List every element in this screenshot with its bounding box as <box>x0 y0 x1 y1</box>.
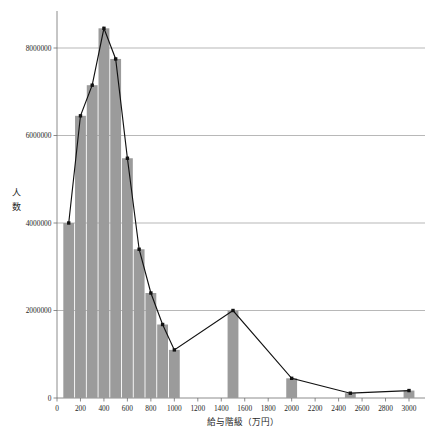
bar-2000 <box>286 378 297 398</box>
data-point-300 <box>91 83 94 86</box>
data-point-3000 <box>407 389 410 392</box>
x-tick-label-2600: 2600 <box>355 404 370 413</box>
y-tick-label-2000000: 2000000 <box>26 306 52 315</box>
bar-100 <box>63 223 74 398</box>
bar-1500 <box>228 311 239 399</box>
bar-800 <box>145 293 156 398</box>
data-point-2000 <box>290 377 293 380</box>
chart-canvas: 0200000040000006000000800000002004006008… <box>0 0 427 434</box>
data-point-1000 <box>173 348 176 351</box>
data-point-2500 <box>349 391 352 394</box>
x-tick-label-3000: 3000 <box>402 404 417 413</box>
bar-300 <box>87 85 98 398</box>
x-tick-label-1600: 1600 <box>237 404 252 413</box>
x-tick-label-2400: 2400 <box>331 404 346 413</box>
data-point-900 <box>161 323 164 326</box>
x-tick-label-1200: 1200 <box>190 404 205 413</box>
x-tick-label-1800: 1800 <box>261 404 276 413</box>
x-tick-label-200: 200 <box>75 404 86 413</box>
data-point-700 <box>137 248 140 251</box>
data-point-1500 <box>231 309 234 312</box>
y-axis-title-char-1: 数 <box>12 201 21 212</box>
y-tick-label-0: 0 <box>48 394 52 403</box>
bar-200 <box>75 116 86 398</box>
x-tick-label-2000: 2000 <box>284 404 299 413</box>
x-tick-label-2800: 2800 <box>378 404 393 413</box>
data-point-500 <box>114 57 117 60</box>
y-tick-label-8000000: 8000000 <box>26 44 52 53</box>
y-axis-title-char-0: 人 <box>12 188 21 198</box>
bar-700 <box>134 249 145 398</box>
bar-1000 <box>169 350 180 398</box>
data-point-200 <box>79 114 82 117</box>
bar-600 <box>122 158 133 398</box>
data-point-600 <box>126 157 129 160</box>
histogram-chart: 0200000040000006000000800000002004006008… <box>0 0 427 434</box>
bar-400 <box>99 28 110 398</box>
x-tick-label-0: 0 <box>55 404 59 413</box>
x-tick-label-800: 800 <box>145 404 156 413</box>
x-tick-label-1000: 1000 <box>167 404 182 413</box>
x-axis-title: 給与階級（万円） <box>207 416 279 427</box>
x-tick-label-2200: 2200 <box>308 404 323 413</box>
data-point-400 <box>102 27 105 30</box>
data-point-100 <box>67 221 70 224</box>
bar-500 <box>110 59 121 398</box>
x-tick-label-600: 600 <box>122 404 133 413</box>
y-tick-label-6000000: 6000000 <box>26 131 52 140</box>
y-tick-label-4000000: 4000000 <box>26 219 52 228</box>
x-tick-label-1400: 1400 <box>214 404 229 413</box>
bar-900 <box>157 325 168 399</box>
data-point-800 <box>149 291 152 294</box>
x-tick-label-400: 400 <box>98 404 109 413</box>
